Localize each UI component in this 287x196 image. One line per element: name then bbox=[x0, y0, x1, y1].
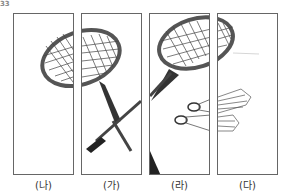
panel-label-ra: (라) bbox=[149, 177, 210, 192]
racket-crossed-handles-icon bbox=[82, 14, 142, 175]
panel-na bbox=[13, 13, 74, 175]
question-number: 33 bbox=[0, 0, 10, 8]
panel-label-ga: (가) bbox=[81, 177, 142, 192]
racket-and-shuttlecock-icon bbox=[150, 14, 210, 175]
panel-ga bbox=[81, 13, 142, 175]
panel-label-na: (나) bbox=[13, 177, 74, 192]
racket-head-left-icon bbox=[14, 14, 74, 175]
panel-da bbox=[217, 13, 278, 175]
panel-ra bbox=[149, 13, 210, 175]
racket-edge-and-feathers-icon bbox=[218, 14, 278, 175]
panel-label-da: (다) bbox=[217, 177, 278, 192]
